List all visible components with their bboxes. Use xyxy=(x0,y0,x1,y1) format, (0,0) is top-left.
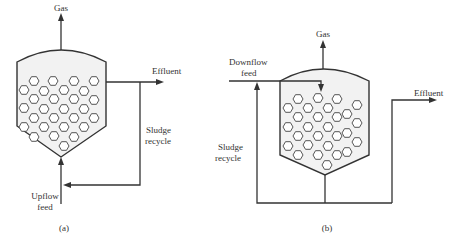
recycle-arrow-icon-b xyxy=(254,82,260,90)
caption-a: (a) xyxy=(59,223,69,233)
diagram-a-upflow-reactor: Gas Effluent Sludge recycle Upflow feed … xyxy=(17,3,182,233)
sludge-recycle-label-a: Sludge xyxy=(146,125,171,135)
gas-label-a: Gas xyxy=(54,3,68,13)
reactor-diagrams: Gas Effluent Sludge recycle Upflow feed … xyxy=(0,0,458,244)
gas-arrow-icon-b xyxy=(320,40,326,48)
effluent-pipe-b xyxy=(392,100,430,203)
sludge-recycle-label-a-2: recycle xyxy=(145,136,171,146)
feed-label-b-2: feed xyxy=(241,68,257,78)
sludge-recycle-label-b-2: recycle xyxy=(215,153,241,163)
feed-label-a-2: feed xyxy=(37,202,53,212)
sludge-recycle-label-b: Sludge xyxy=(218,142,243,152)
feed-arrow-icon-a xyxy=(58,157,64,165)
feed-label-a: Upflow xyxy=(31,191,59,201)
caption-b: (b) xyxy=(322,223,333,233)
diagram-b-downflow-reactor: Gas Downflow feed Sludge recycle Effluen… xyxy=(215,29,444,233)
gas-arrow-icon-a xyxy=(58,13,64,21)
effluent-label-b: Effluent xyxy=(414,88,444,98)
feed-label-b: Downflow xyxy=(229,57,268,67)
gas-label-b: Gas xyxy=(316,29,330,39)
effluent-arrow-icon-a xyxy=(156,79,164,85)
effluent-label-a: Effluent xyxy=(152,66,182,76)
recycle-arrow-icon-a xyxy=(63,182,71,188)
